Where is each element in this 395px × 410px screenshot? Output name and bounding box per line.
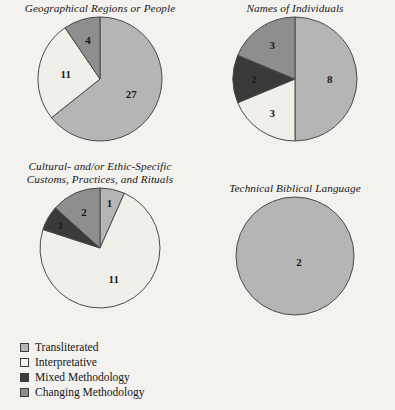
chart-title: Cultural- and/or Ethic-Specific Customs,…: [0, 160, 200, 186]
pie-cultural-ethic-specific: 11112: [33, 186, 167, 310]
svg-text:1: 1: [58, 220, 64, 232]
pie-names-of-individuals: 8323: [228, 15, 362, 143]
pie-container: 11112: [0, 186, 200, 310]
pie-container: 8323: [195, 15, 395, 143]
chart-title: Technical Biblical Language: [195, 182, 395, 195]
legend-swatch-changing-methodology: [20, 388, 29, 397]
svg-text:27: 27: [126, 88, 138, 100]
chart-geographical-regions-or-people: Geographical Regions or People 27114: [0, 2, 200, 143]
legend-swatch-interpretative: [20, 358, 29, 367]
svg-text:2: 2: [251, 73, 257, 85]
chart-title: Geographical Regions or People: [0, 2, 200, 15]
svg-text:3: 3: [270, 39, 276, 51]
chart-cultural-ethic-specific-customs-practices-rituals: Cultural- and/or Ethic-Specific Customs,…: [0, 160, 200, 310]
svg-text:3: 3: [270, 107, 276, 119]
svg-text:1: 1: [107, 198, 113, 210]
svg-text:4: 4: [85, 34, 91, 46]
svg-text:2: 2: [81, 206, 87, 218]
legend-label: Interpretative: [35, 356, 97, 369]
pie-container: 27114: [0, 15, 200, 143]
svg-text:11: 11: [60, 68, 70, 80]
legend-item: Transliterated: [20, 340, 145, 354]
legend-label: Transliterated: [35, 341, 98, 354]
svg-text:8: 8: [327, 73, 333, 85]
legend-item: Interpretative: [20, 355, 145, 369]
svg-text:2: 2: [296, 256, 302, 268]
chart-names-of-individuals: Names of Individuals 8323: [195, 2, 395, 143]
legend-label: Mixed Methodology: [35, 371, 130, 384]
chart-title: Names of Individuals: [195, 2, 395, 15]
pie-geographical-regions-or-people: 27114: [30, 15, 170, 143]
methodology-legend: Transliterated Interpretative Mixed Meth…: [20, 340, 145, 400]
pie-chart-figure: Geographical Regions or People 27114 Nam…: [0, 0, 395, 410]
svg-text:11: 11: [108, 273, 118, 285]
pie-container: 2: [195, 195, 395, 317]
legend-label: Changing Methodology: [35, 386, 145, 399]
chart-technical-biblical-language: Technical Biblical Language 2: [195, 182, 395, 317]
legend-item: Changing Methodology: [20, 385, 145, 399]
legend-swatch-transliterated: [20, 343, 29, 352]
pie-technical-biblical-language: 2: [233, 195, 357, 317]
legend-item: Mixed Methodology: [20, 370, 145, 384]
legend-swatch-mixed-methodology: [20, 373, 29, 382]
